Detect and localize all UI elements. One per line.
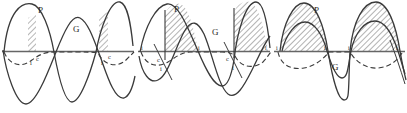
label-tick-left: i — [141, 45, 143, 51]
label-i-left: i — [276, 45, 278, 51]
label-P: P — [314, 5, 319, 15]
label-G: G — [332, 62, 339, 72]
panel-a: P G c c i i — [0, 0, 136, 113]
label-tick-mid: i — [198, 45, 200, 51]
label-i-right: i — [232, 64, 234, 71]
label-P: P — [38, 5, 43, 15]
label-c-left: c — [36, 55, 39, 62]
label-i-left: i — [30, 59, 32, 66]
label-c-right: c — [108, 53, 111, 60]
label-P: P — [174, 4, 179, 14]
label-c-right: c — [226, 55, 229, 62]
label-G: G — [212, 27, 219, 37]
label-i-left: i — [160, 65, 162, 72]
panel-c: P G i i i i — [272, 0, 407, 113]
label-i-right: i — [101, 59, 103, 66]
curve-c — [4, 52, 134, 65]
panel-b: P G c c i i i i i — [136, 0, 272, 113]
shaded-region — [280, 2, 400, 51]
curve-c — [278, 52, 402, 68]
label-G: G — [73, 24, 80, 34]
curve-G — [3, 17, 135, 104]
waveform-figure: P G c c i i — [0, 0, 407, 113]
label-c-left: c — [157, 56, 160, 63]
